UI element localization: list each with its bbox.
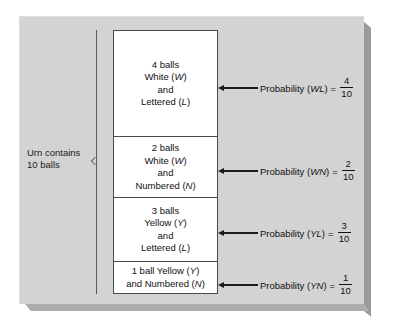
cell-line: 2 balls <box>152 142 179 155</box>
urn-partition-stack: 4 balls White (W) and Lettered (L) 2 bal… <box>113 30 218 294</box>
arrow-left-icon <box>218 83 258 93</box>
cell-line: and <box>158 230 174 243</box>
cell-line: and Numbered (N) <box>126 278 205 291</box>
grouping-bracket <box>96 30 102 294</box>
probability-expression: Probability (WL) = 4 10 <box>260 77 353 99</box>
callout-yellow-lettered: Probability (YL) = 3 10 <box>218 226 351 240</box>
panel-shadow-bottom-edge <box>25 304 370 311</box>
fraction: 3 10 <box>338 221 351 243</box>
arrow-left-icon <box>218 280 258 290</box>
fraction-numerator: 4 <box>344 76 349 87</box>
probability-expression: Probability (WN) = 2 10 <box>260 160 355 182</box>
cell-line: and <box>158 167 174 180</box>
cell-line: 4 balls <box>152 59 179 72</box>
urn-label-line-1: Urn contains <box>27 147 102 159</box>
fraction-numerator: 3 <box>341 221 346 232</box>
equals-sign: = <box>328 228 334 239</box>
probability-expression: Probability (YL) = 3 10 <box>260 222 351 244</box>
group-cell-yellow-lettered: 3 balls Yellow (Y) and Lettered (L) <box>114 198 217 262</box>
diagram-panel: Urn contains 10 balls 4 balls White (W) … <box>19 16 364 304</box>
cell-line: White (W) <box>144 71 186 84</box>
probability-expression: Probability (YN) = 1 10 <box>260 274 352 296</box>
fraction-denominator: 10 <box>340 285 351 296</box>
arrow-left-icon <box>218 166 258 176</box>
fraction-numerator: 2 <box>346 159 351 170</box>
diagram-canvas: Urn contains 10 balls 4 balls White (W) … <box>0 0 394 327</box>
cell-line: 3 balls <box>152 205 179 218</box>
panel-shadow-right-edge <box>364 22 371 317</box>
group-cell-white-numbered: 2 balls White (W) and Numbered (N) <box>114 137 217 198</box>
equals-sign: = <box>331 83 337 94</box>
equals-sign: = <box>330 280 336 291</box>
fraction: 2 10 <box>342 159 355 181</box>
fraction-denominator: 10 <box>343 171 354 182</box>
callout-white-numbered: Probability (WN) = 2 10 <box>218 164 355 178</box>
arrow-left-icon <box>218 228 258 238</box>
cell-line: Lettered (L) <box>141 242 190 255</box>
probability-label: Probability (YL) <box>260 228 325 239</box>
fraction-numerator: 1 <box>343 273 348 284</box>
group-cell-yellow-numbered: 1 ball Yellow (Y) and Numbered (N) <box>114 262 217 293</box>
probability-label: Probability (WL) <box>260 83 328 94</box>
cell-line: 1 ball Yellow (Y) <box>132 265 200 278</box>
fraction: 4 10 <box>340 76 353 98</box>
callout-white-lettered: Probability (WL) = 4 10 <box>218 81 353 95</box>
cell-line: Lettered (L) <box>141 96 190 109</box>
fraction-denominator: 10 <box>341 88 352 99</box>
cell-line: and <box>158 84 174 97</box>
cell-line: White (W) <box>144 155 186 168</box>
callout-yellow-numbered: Probability (YN) = 1 10 <box>218 278 352 292</box>
urn-contents-label: Urn contains 10 balls <box>27 147 102 171</box>
cell-line: Numbered (N) <box>135 180 195 193</box>
fraction: 1 10 <box>339 273 352 295</box>
probability-label: Probability (WN) <box>260 166 329 177</box>
probability-label: Probability (YN) <box>260 280 327 291</box>
equals-sign: = <box>332 166 338 177</box>
cell-line: Yellow (Y) <box>144 217 186 230</box>
fraction-denominator: 10 <box>339 233 350 244</box>
group-cell-white-lettered: 4 balls White (W) and Lettered (L) <box>114 31 217 137</box>
